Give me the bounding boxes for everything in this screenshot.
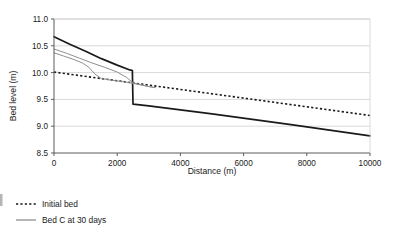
x-tick-label: 0	[52, 159, 57, 168]
legend-label: Bed C at 30 days	[42, 215, 106, 225]
page-edge-artifact	[0, 194, 3, 206]
x-tick-label: 8000	[298, 159, 317, 168]
y-tick-label: 10.5	[32, 42, 48, 51]
x-tick-label: 10000	[359, 159, 382, 168]
y-axis-title: Bed level (m)	[8, 71, 18, 122]
y-tick-label: 9.0	[37, 122, 49, 131]
y-tick-label: 10.0	[32, 69, 48, 78]
x-axis-title: Distance (m)	[188, 166, 237, 176]
y-tick-label: 9.5	[37, 95, 49, 104]
y-tick-label: 11.0	[33, 15, 49, 24]
legend-label: Initial bed	[42, 199, 78, 209]
chart-figure: 8.59.09.510.010.511.0 020004000600080001…	[0, 0, 398, 226]
x-tick-label: 2000	[108, 159, 127, 168]
bed-level-line-chart: 8.59.09.510.010.511.0 020004000600080001…	[0, 0, 398, 226]
x-tick-label: 6000	[234, 159, 253, 168]
y-tick-label: 8.5	[37, 149, 49, 158]
